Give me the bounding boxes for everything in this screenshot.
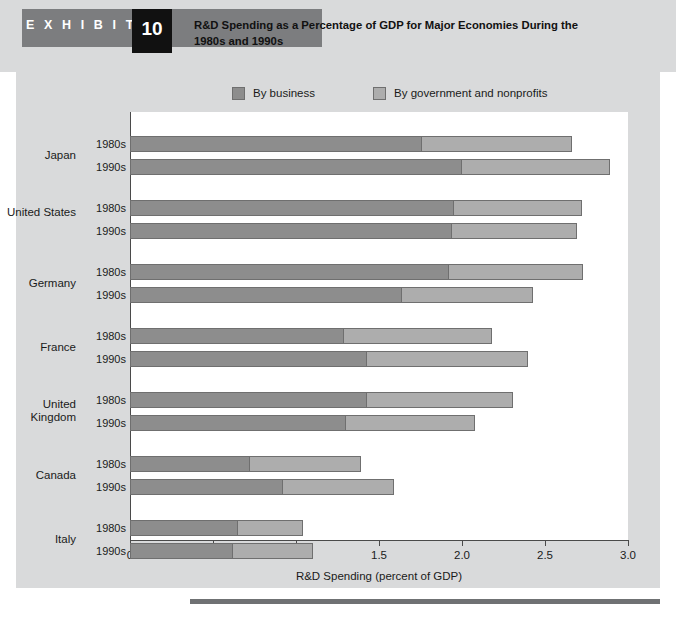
country-label: Italy xyxy=(2,533,76,547)
bar-row[interactable] xyxy=(130,328,492,344)
bar-segment-government[interactable] xyxy=(344,328,492,344)
bar-row[interactable] xyxy=(130,159,610,175)
period-label: 1990s xyxy=(82,289,126,301)
bar-row[interactable] xyxy=(130,479,394,495)
bar-row[interactable] xyxy=(130,264,583,280)
bar-row[interactable] xyxy=(130,392,513,408)
bar-segment-business[interactable] xyxy=(130,223,452,239)
period-label: 1980s xyxy=(82,458,126,470)
bar-row[interactable] xyxy=(130,351,528,367)
bar-segment-government[interactable] xyxy=(283,479,394,495)
bar-segment-business[interactable] xyxy=(130,479,283,495)
period-label: 1980s xyxy=(82,266,126,278)
period-label: 1990s xyxy=(82,481,126,493)
exhibit-label: E X H I B I T xyxy=(26,19,144,32)
bar-segment-business[interactable] xyxy=(130,159,462,175)
x-tick-label: 3.0 xyxy=(620,549,636,561)
bar-segment-business[interactable] xyxy=(130,520,238,536)
bar-segment-government[interactable] xyxy=(402,287,533,303)
bar-segment-business[interactable] xyxy=(130,264,449,280)
bar-segment-business[interactable] xyxy=(130,287,402,303)
period-label: 1990s xyxy=(82,225,126,237)
x-tick xyxy=(462,540,463,546)
legend-label: By government and nonprofits xyxy=(394,87,547,99)
bar-segment-business[interactable] xyxy=(130,392,367,408)
bar-segment-government[interactable] xyxy=(452,223,577,239)
legend-item-business[interactable]: By business xyxy=(232,87,315,100)
bar-row[interactable] xyxy=(130,223,577,239)
bar-row[interactable] xyxy=(130,456,361,472)
bar-segment-government[interactable] xyxy=(422,136,571,152)
period-label: 1990s xyxy=(82,545,126,557)
country-label: Germany xyxy=(2,277,76,291)
period-label: 1990s xyxy=(82,353,126,365)
bar-segment-government[interactable] xyxy=(449,264,583,280)
legend-swatch-business-icon xyxy=(232,87,245,100)
period-label: 1990s xyxy=(82,417,126,429)
exhibit-number: 10 xyxy=(132,19,172,38)
country-label: United Kingdom xyxy=(2,398,76,425)
bar-segment-government[interactable] xyxy=(250,456,361,472)
period-label: 1990s xyxy=(82,161,126,173)
period-label: 1980s xyxy=(82,202,126,214)
country-label: United States xyxy=(2,206,76,220)
legend-swatch-government-icon xyxy=(373,87,386,100)
x-tick xyxy=(545,540,546,546)
country-label: Japan xyxy=(2,149,76,163)
bar-segment-government[interactable] xyxy=(346,415,475,431)
period-label: 1980s xyxy=(82,394,126,406)
x-axis-title: R&D Spending (percent of GDP) xyxy=(130,570,628,582)
x-tick-label: 2.5 xyxy=(537,549,553,561)
exhibit-title: R&D Spending as a Percentage of GDP for … xyxy=(194,18,594,49)
bar-segment-government[interactable] xyxy=(367,351,528,367)
bar-row[interactable] xyxy=(130,200,582,216)
bar-segment-government[interactable] xyxy=(454,200,582,216)
country-label: Canada xyxy=(2,469,76,483)
bar-row[interactable] xyxy=(130,520,303,536)
bar-row[interactable] xyxy=(130,415,475,431)
bar-segment-business[interactable] xyxy=(130,543,233,559)
period-label: 1980s xyxy=(82,138,126,150)
bar-row[interactable] xyxy=(130,136,572,152)
x-tick-label: 2.0 xyxy=(454,549,470,561)
bar-row[interactable] xyxy=(130,287,533,303)
bottom-rule xyxy=(190,599,660,604)
bar-segment-business[interactable] xyxy=(130,456,250,472)
bar-segment-business[interactable] xyxy=(130,328,344,344)
legend-label: By business xyxy=(253,87,315,99)
plot-area xyxy=(130,112,628,540)
x-tick xyxy=(379,540,380,546)
bar-segment-government[interactable] xyxy=(238,520,303,536)
exhibit-figure: E X H I B I T 10 R&D Spending as a Perce… xyxy=(0,0,676,617)
chart-legend: By businessBy government and nonprofits xyxy=(232,85,547,101)
bar-segment-business[interactable] xyxy=(130,415,346,431)
legend-item-government[interactable]: By government and nonprofits xyxy=(373,87,547,100)
bar-segment-business[interactable] xyxy=(130,136,422,152)
country-label: France xyxy=(2,341,76,355)
bar-segment-business[interactable] xyxy=(130,351,367,367)
bar-row[interactable] xyxy=(130,543,313,559)
x-tick xyxy=(628,540,629,546)
period-label: 1980s xyxy=(82,522,126,534)
bar-segment-government[interactable] xyxy=(462,159,610,175)
bar-segment-government[interactable] xyxy=(233,543,313,559)
x-tick-label: 1.5 xyxy=(371,549,387,561)
period-label: 1980s xyxy=(82,330,126,342)
bar-segment-business[interactable] xyxy=(130,200,454,216)
bar-segment-government[interactable] xyxy=(367,392,513,408)
